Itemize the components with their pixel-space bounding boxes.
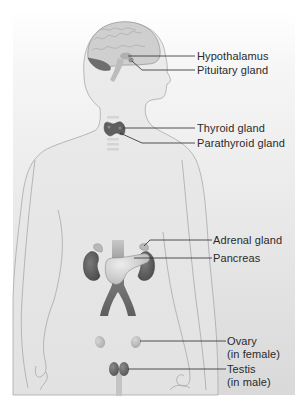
label-ovary-note: (in female) [227, 348, 280, 360]
label-pituitary-gland: Pituitary gland [197, 64, 268, 76]
label-pancreas: Pancreas [213, 252, 260, 264]
label-testis: Testis [227, 363, 256, 375]
endocrine-diagram: Hypothalamus Pituitary gland Thyroid gla… [0, 0, 305, 412]
label-ovary: Ovary [227, 335, 257, 347]
label-parathyroid-gland: Parathyroid gland [197, 137, 285, 149]
label-adrenal-gland: Adrenal gland [213, 234, 282, 246]
label-testis-note: (in male) [227, 376, 271, 388]
label-hypothalamus: Hypothalamus [197, 50, 269, 62]
label-thyroid-gland: Thyroid gland [197, 122, 265, 134]
